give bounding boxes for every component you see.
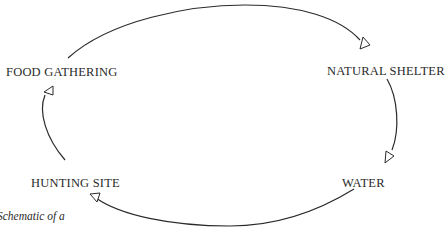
edge-water-to-hunting	[96, 189, 354, 226]
cycle-diagram: FOOD GATHERING NATURAL SHELTER WATER HUN…	[0, 0, 448, 229]
cycle-arrows	[0, 0, 448, 229]
arrowhead-icon	[90, 193, 100, 202]
node-natural-shelter: NATURAL SHELTER	[327, 65, 445, 78]
arrowhead-icon	[360, 37, 370, 49]
node-food-gathering: FOOD GATHERING	[6, 66, 117, 79]
node-water: WATER	[342, 177, 385, 190]
figure-caption: Schematic of a	[0, 211, 65, 223]
edge-food-to-shelter	[68, 5, 360, 58]
edge-hunting-to-food	[42, 95, 65, 160]
arrowhead-icon	[385, 151, 394, 163]
node-hunting-site: HUNTING SITE	[31, 177, 120, 190]
edge-shelter-to-water	[387, 79, 397, 150]
arrowhead-icon	[44, 86, 53, 95]
